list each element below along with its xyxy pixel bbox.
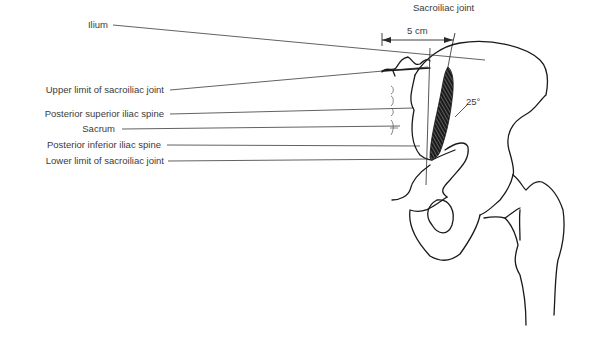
label-posterior-superior-iliac-spine: Posterior superior iliac spine bbox=[45, 108, 164, 119]
diagram-title: Sacroiliac joint bbox=[413, 2, 474, 13]
psis-leader-line bbox=[170, 108, 414, 114]
sacrum-leader-line bbox=[122, 126, 400, 129]
label-lower-limit-of-sacroiliac-joint: Lower limit of sacroiliac joint bbox=[46, 155, 164, 166]
bracket-marks bbox=[390, 86, 398, 135]
lower-limit-leader-line bbox=[168, 159, 428, 161]
sacroiliac-joint-hatched-area bbox=[430, 67, 453, 159]
label-sacrum: Sacrum bbox=[82, 123, 115, 134]
ilium-leader-line bbox=[113, 25, 485, 60]
sacroiliac-joint-diagram: Sacroiliac joint 5 cm 25° Ilium Upper li… bbox=[0, 0, 589, 338]
leader-lines bbox=[113, 25, 485, 161]
ilium-outline bbox=[382, 42, 564, 325]
label-upper-limit-of-sacroiliac-joint: Upper limit of sacroiliac joint bbox=[46, 84, 164, 95]
label-ilium: Ilium bbox=[88, 19, 108, 30]
angle-label: 25° bbox=[466, 96, 480, 107]
pelvis-illustration bbox=[0, 0, 589, 338]
label-posterior-inferior-iliac-spine: Posterior inferior iliac spine bbox=[47, 139, 161, 150]
piis-leader-line bbox=[167, 145, 420, 146]
measurement-label: 5 cm bbox=[407, 25, 428, 36]
